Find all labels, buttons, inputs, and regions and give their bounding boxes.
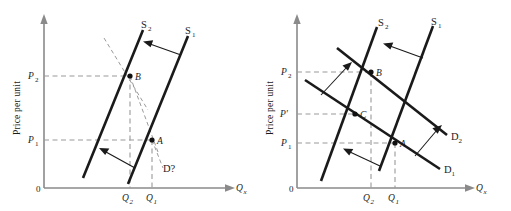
x-axis-title-sub: x — [483, 188, 488, 196]
demand-curve-1-label-sub: 1 — [452, 170, 456, 178]
y-tick-p2-label: P — [27, 71, 34, 81]
supply-curve-1-label: S — [185, 25, 191, 36]
supply-curve-1-label: S — [431, 16, 437, 27]
x-tick-q1-label: Q — [388, 193, 395, 203]
point-a-marker — [392, 140, 397, 145]
y-tick-p1-label: P — [280, 138, 287, 148]
point-b-label: B — [376, 68, 382, 78]
panel-right-canvas: Price per unit 0 P 2 P' P 1 Q 2 Q 1 Q x … — [255, 0, 511, 211]
x-tick-q1-sub: 1 — [396, 198, 400, 206]
supply-curve-1-label-sub: 1 — [192, 31, 196, 39]
supply-shift-arrow-lower-head — [343, 149, 353, 156]
supply-curve-1-label-sub: 1 — [438, 22, 442, 30]
equilibrium-points-right — [352, 69, 397, 145]
supply-shift-arrow-upper-head — [143, 40, 153, 47]
x-axis-arrowhead — [225, 184, 235, 191]
y-axis-title: Price per unit — [12, 81, 22, 135]
y-axis-title: Price per unit — [265, 81, 275, 135]
y-axis-arrowhead — [40, 14, 47, 24]
supply-shift-arrow-lower-line — [106, 152, 135, 168]
panel-left: Price per unit 0 P 2 P 1 Q 2 Q 1 Q x S 2… — [0, 0, 256, 211]
x-axis-arrowhead — [465, 184, 475, 191]
x-axis-title: Q — [476, 183, 483, 193]
x-tick-q2-label: Q — [122, 193, 129, 203]
supply-shift-arrow-upper-line — [150, 44, 181, 55]
panel-right: Price per unit 0 P 2 P' P 1 Q 2 Q 1 Q x … — [255, 0, 511, 211]
supply-shift-arrow-upper-line — [390, 46, 423, 58]
point-b-label: B — [135, 72, 141, 82]
y-tick-pprime-label: P' — [279, 109, 289, 119]
demand-curve-1 — [305, 80, 440, 169]
economics-diagram-figure: Price per unit 0 P 2 P 1 Q 2 Q 1 Q x S 2… — [0, 0, 511, 211]
origin-label: 0 — [289, 184, 294, 194]
demand-unknown-label: D? — [163, 163, 176, 174]
supply-curve-2 — [321, 27, 377, 181]
point-a-label: A — [156, 136, 163, 146]
shift-arrows-right — [321, 43, 442, 166]
origin-label: 0 — [36, 184, 41, 194]
supply-curve-1 — [128, 36, 188, 184]
demand-curves-right — [305, 48, 447, 169]
demand-shift-arrow-lower-line — [415, 130, 437, 156]
y-axis-arrowhead — [293, 14, 300, 24]
demand-shift-arrow-upper-head — [343, 62, 353, 71]
supply-curves-left — [83, 30, 188, 184]
point-a-label: A — [399, 139, 406, 149]
x-axis-title-sub: x — [243, 188, 248, 196]
x-tick-q1-sub: 1 — [154, 198, 158, 206]
demand-shift-arrow-upper-line — [321, 67, 347, 95]
supply-curve-1 — [379, 26, 433, 171]
supply-shift-arrow-lower-head — [99, 148, 109, 155]
demand-curve-2-label-sub: 2 — [459, 137, 463, 145]
y-tick-p2-label: P — [280, 67, 287, 77]
y-tick-p1-sub: 1 — [288, 143, 292, 151]
y-tick-p2-sub: 2 — [288, 72, 292, 80]
supply-curve-2-label: S — [141, 19, 147, 30]
x-tick-q2-sub: 2 — [371, 198, 375, 206]
x-tick-q2-label: Q — [363, 193, 370, 203]
point-c-label: C — [360, 110, 367, 120]
x-tick-q2-sub: 2 — [130, 198, 134, 206]
point-c-marker — [352, 111, 357, 116]
x-axis-title: Q — [236, 183, 243, 193]
supply-curve-2-label-sub: 2 — [385, 23, 389, 31]
y-tick-p2-sub: 2 — [35, 76, 39, 84]
panel-left-canvas: Price per unit 0 P 2 P 1 Q 2 Q 1 Q x S 2… — [0, 0, 256, 211]
supply-curve-2-label: S — [378, 17, 384, 28]
x-tick-q1-label: Q — [146, 193, 153, 203]
point-b-marker — [127, 73, 132, 78]
supply-shift-arrow-upper-head — [383, 43, 393, 50]
supply-shift-arrow-lower-line — [350, 152, 380, 166]
supply-curve-2-label-sub: 2 — [148, 25, 152, 33]
point-a-marker — [149, 137, 154, 142]
y-tick-p1-label: P — [27, 135, 34, 145]
point-b-marker — [368, 69, 373, 74]
y-tick-p1-sub: 1 — [35, 140, 39, 148]
